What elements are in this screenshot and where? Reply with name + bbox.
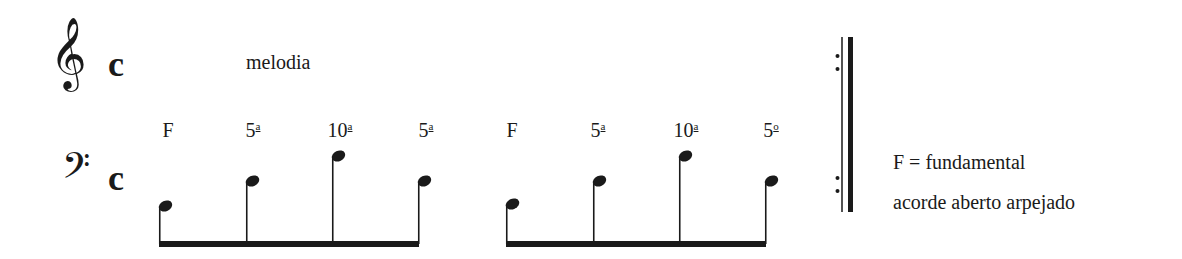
repeat-dot — [836, 176, 840, 180]
legend-fundamental: F = fundamental — [893, 152, 1025, 172]
repeat-dot — [836, 54, 840, 58]
beam — [506, 241, 766, 247]
notation-canvas — [0, 0, 1182, 259]
thick-barline — [848, 37, 853, 212]
repeat-dot — [836, 67, 840, 71]
legend-description: acorde aberto arpejado — [893, 192, 1075, 212]
repeat-dot — [836, 189, 840, 193]
beam — [159, 241, 419, 247]
